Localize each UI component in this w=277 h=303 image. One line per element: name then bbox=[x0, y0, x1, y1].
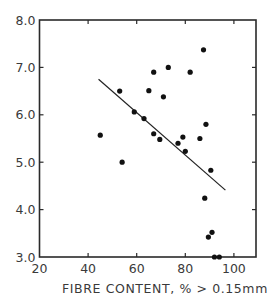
data-point bbox=[197, 136, 202, 141]
data-point bbox=[201, 47, 206, 52]
data-point bbox=[98, 133, 103, 138]
data-point bbox=[212, 254, 217, 259]
y-tick-label: 4.0 bbox=[16, 202, 36, 217]
y-tick-label: 8.0 bbox=[16, 13, 36, 28]
data-point bbox=[132, 109, 137, 114]
data-point bbox=[151, 131, 156, 136]
data-point bbox=[180, 134, 185, 139]
y-axis-tick-labels: 3.04.05.06.07.08.0 bbox=[16, 13, 36, 265]
x-axis-title: FIBRE CONTENT, % > 0.15mm bbox=[62, 281, 268, 296]
x-tick-label: 40 bbox=[80, 261, 96, 276]
data-point bbox=[208, 168, 213, 173]
y-tick-label: 6.0 bbox=[16, 107, 36, 122]
scatter-chart: 3.04.05.06.07.08.0 20406080100 FIBRE CON… bbox=[0, 0, 277, 303]
y-tick-label: 5.0 bbox=[16, 155, 36, 170]
x-tick-label: 20 bbox=[32, 261, 48, 276]
data-point bbox=[203, 122, 208, 127]
data-point bbox=[175, 141, 180, 146]
x-axis-tick-labels: 20406080100 bbox=[32, 261, 246, 276]
x-tick-label: 100 bbox=[222, 261, 246, 276]
data-point bbox=[157, 137, 162, 142]
data-point bbox=[183, 149, 188, 154]
data-point bbox=[166, 65, 171, 70]
x-tick-label: 60 bbox=[129, 261, 145, 276]
y-tick-label: 7.0 bbox=[16, 60, 36, 75]
data-point bbox=[188, 70, 193, 75]
data-point bbox=[117, 89, 122, 94]
data-point bbox=[161, 94, 166, 99]
data-point bbox=[120, 160, 125, 165]
data-point bbox=[209, 230, 214, 235]
data-point bbox=[206, 234, 211, 239]
x-tick-label: 80 bbox=[177, 261, 193, 276]
data-point bbox=[141, 116, 146, 121]
plot-frame bbox=[40, 20, 257, 257]
data-point bbox=[217, 254, 222, 259]
data-points bbox=[98, 47, 222, 259]
axis-ticks bbox=[40, 20, 257, 257]
data-point bbox=[151, 70, 156, 75]
data-point bbox=[202, 196, 207, 201]
data-point bbox=[146, 88, 151, 93]
